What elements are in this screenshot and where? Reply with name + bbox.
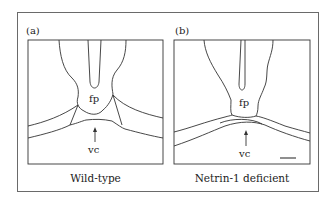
panel-a-upper-right (113, 95, 163, 118)
panel-a-vc-label: vc (88, 144, 99, 155)
panel-b-lumen (239, 40, 245, 90)
panel-b-commissure-arc (220, 119, 262, 124)
panel-a-caption: Wild-type (28, 172, 163, 184)
panel-b-right-wall (256, 40, 273, 116)
panel-a-lumen (88, 40, 101, 88)
panel-b-label: (b) (175, 25, 189, 36)
panel-a-fp-label: fp (89, 93, 99, 104)
panel-a-lower-right (125, 129, 163, 138)
panel-a-floorplate-bottom (84, 110, 103, 114)
panel-a-label: (a) (26, 25, 40, 36)
panel-b-vc-label: vc (239, 148, 250, 159)
panel-a-commissure (70, 119, 125, 129)
panel-b-caption: Netrin-1 deficient (174, 172, 310, 184)
panel-b-floorplate-bottom (232, 115, 256, 117)
panel-a-lower-left (28, 125, 70, 138)
panel-b-fp-label: fp (239, 97, 249, 108)
panel-b-left-wall (204, 40, 232, 115)
panel-a-left-wall (59, 40, 84, 111)
panel-b-upper-left (174, 115, 232, 132)
